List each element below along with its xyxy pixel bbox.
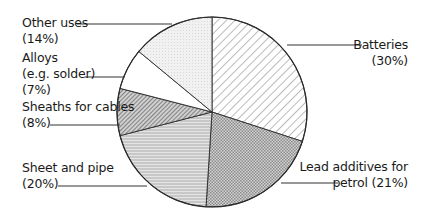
label-sheet-pipe: Sheet and pipe (20%) — [22, 160, 114, 192]
label-percent: (20%) — [22, 176, 114, 192]
label-text: (e.g. solder) — [22, 66, 95, 82]
label-batteries: Batteries (30%) — [353, 37, 408, 69]
label-text: Sheaths for cables — [22, 99, 134, 115]
label-percent: (8%) — [22, 115, 134, 131]
label-text: Sheet and pipe — [22, 160, 114, 176]
label-percent: (30%) — [353, 53, 408, 69]
label-other-uses: Other uses (14%) — [22, 15, 88, 47]
label-sheaths: Sheaths for cables (8%) — [22, 99, 134, 131]
label-alloys: Alloys (e.g. solder) (7%) — [22, 50, 95, 98]
label-percent: petrol (21%) — [299, 175, 408, 191]
label-lead-additives: Lead additives for petrol (21%) — [299, 159, 408, 191]
label-text: Alloys — [22, 50, 95, 66]
label-text: Batteries — [353, 37, 408, 53]
label-text: Other uses — [22, 15, 88, 31]
label-percent: (7%) — [22, 82, 95, 98]
pie-slices — [117, 17, 307, 207]
label-percent: (14%) — [22, 31, 88, 47]
label-text: Lead additives for — [299, 159, 408, 175]
